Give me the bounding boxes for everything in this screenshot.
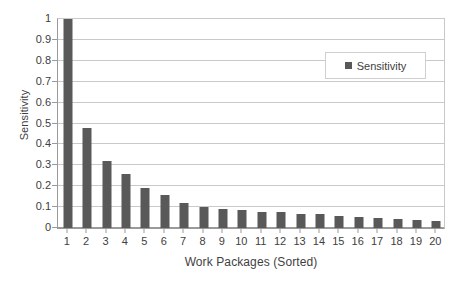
- x-axis-tick: [396, 229, 397, 233]
- bar: [180, 203, 189, 228]
- x-axis-tick-label: 15: [332, 235, 344, 247]
- x-axis-tick: [377, 229, 378, 233]
- x-axis-tick-label: 14: [313, 235, 325, 247]
- bar: [141, 188, 150, 228]
- bar: [121, 174, 130, 228]
- bar: [199, 207, 208, 228]
- x-axis-tick-label: 8: [199, 235, 205, 247]
- x-axis-tick: [415, 229, 416, 233]
- x-axis-tick: [221, 229, 222, 233]
- bar: [335, 216, 344, 228]
- x-axis-tick-label: 6: [161, 235, 167, 247]
- x-axis-tick-label: 9: [219, 235, 225, 247]
- x-axis-tick-label: 19: [410, 235, 422, 247]
- bar: [218, 209, 227, 228]
- plot-area: [57, 18, 445, 229]
- y-axis-tick-label: 0.4: [18, 137, 51, 149]
- x-axis-tick-label: 16: [352, 235, 364, 247]
- x-axis-tick: [299, 229, 300, 233]
- bar: [393, 219, 402, 228]
- x-axis-tick-labels: 1234567891011121314151617181920: [57, 235, 445, 251]
- bar: [374, 218, 383, 228]
- bar: [354, 217, 363, 228]
- x-axis-tick: [124, 229, 125, 233]
- bar: [296, 214, 305, 228]
- x-axis-tick: [202, 229, 203, 233]
- x-axis-tick-label: 12: [274, 235, 286, 247]
- y-axis-tick-label: 0.5: [18, 117, 51, 129]
- legend-marker-square-icon: [345, 62, 352, 69]
- y-axis-tick-label: 0.8: [18, 54, 51, 66]
- x-axis-tick-marks: [57, 229, 445, 234]
- x-axis-tick: [435, 229, 436, 233]
- bar: [257, 212, 266, 228]
- x-axis-tick-label: 11: [255, 235, 266, 247]
- bar: [432, 221, 441, 228]
- x-axis-tick-label: 20: [429, 235, 441, 247]
- x-axis-tick: [260, 229, 261, 233]
- x-axis-tick-label: 7: [180, 235, 186, 247]
- bars-layer: [58, 19, 444, 228]
- bar: [63, 19, 72, 228]
- bar: [160, 195, 169, 228]
- x-axis-tick-label: 1: [64, 235, 70, 247]
- x-axis-tick: [280, 229, 281, 233]
- x-axis-title: Work Packages (Sorted): [57, 255, 445, 269]
- bar: [83, 128, 92, 228]
- legend-label: Sensitivity: [357, 60, 407, 72]
- bar: [315, 214, 324, 228]
- y-axis-tick-label: 0: [18, 221, 51, 233]
- x-axis-tick: [163, 229, 164, 233]
- y-axis-tick-label: 0.2: [18, 179, 51, 191]
- y-axis-tick-label: 0.9: [18, 33, 51, 45]
- x-axis-tick-label: 17: [371, 235, 383, 247]
- chart-legend: Sensitivity: [325, 52, 426, 79]
- y-axis-tick-label: 0.1: [18, 200, 51, 212]
- y-axis-tick-label: 0.3: [18, 158, 51, 170]
- x-axis-tick: [318, 229, 319, 233]
- x-axis-tick: [338, 229, 339, 233]
- bar: [277, 212, 286, 228]
- x-axis-tick: [357, 229, 358, 233]
- y-axis-tick-label: 0.6: [18, 96, 51, 108]
- x-axis-tick-label: 3: [102, 235, 108, 247]
- x-axis-tick: [105, 229, 106, 233]
- sensitivity-bar-chart: Sensitivity 00.10.20.30.40.50.60.70.80.9…: [0, 0, 462, 284]
- x-axis-tick-label: 4: [122, 235, 128, 247]
- y-axis-tick-label: 1: [18, 12, 51, 24]
- y-axis-tick-labels: 00.10.20.30.40.50.60.70.80.91: [18, 0, 51, 284]
- bar: [412, 220, 421, 228]
- bar: [102, 161, 111, 228]
- x-axis-tick: [183, 229, 184, 233]
- y-axis-tick-label: 0.7: [18, 75, 51, 87]
- x-axis-tick: [66, 229, 67, 233]
- x-axis-tick: [241, 229, 242, 233]
- bar: [238, 210, 247, 228]
- x-axis-tick-label: 5: [141, 235, 147, 247]
- x-axis-tick-label: 13: [293, 235, 305, 247]
- x-axis-tick: [86, 229, 87, 233]
- x-axis-tick-label: 10: [235, 235, 247, 247]
- x-axis-tick-label: 18: [390, 235, 402, 247]
- x-axis-tick-label: 2: [83, 235, 89, 247]
- x-axis-tick: [144, 229, 145, 233]
